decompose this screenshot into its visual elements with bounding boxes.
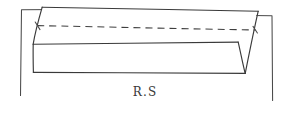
caption-label: R.S <box>133 85 158 99</box>
beam-elevation-drawing: R.S <box>0 0 291 113</box>
sketch-canvas: R.S <box>0 0 291 113</box>
top-face-fill <box>33 7 258 44</box>
front-face-fill <box>33 42 245 73</box>
